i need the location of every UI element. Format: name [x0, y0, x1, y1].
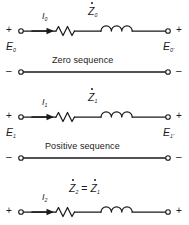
figure-canvas: + + – – I0 Z0 E0 E0' Zero sequence + + –…: [0, 0, 189, 225]
negative-top-right-polarity: +: [176, 206, 182, 216]
zero-source-voltage-label: E0: [6, 41, 16, 52]
positive-impedance-label: Z1: [88, 92, 97, 103]
positive-top-left-polarity: +: [6, 111, 12, 121]
terminal-node: [166, 156, 171, 161]
current-arrow: [47, 209, 55, 215]
terminal-node: [166, 115, 171, 120]
impedance-dot-accent: [94, 179, 96, 181]
negative-impedance-equation: Z2=Z1: [69, 183, 100, 194]
zero-top-left-polarity: +: [6, 25, 12, 35]
impedance-dot-accent: [91, 88, 93, 90]
terminal-node: [19, 156, 24, 161]
current-arrow: [47, 114, 55, 120]
zero-bottom-right-polarity: –: [176, 66, 182, 76]
terminal-node: [166, 70, 171, 75]
terminal-node: [19, 70, 24, 75]
positive-load-voltage-label: E1': [163, 127, 174, 138]
zero-sequence-title: Zero sequence: [52, 56, 113, 65]
terminal-node: [19, 29, 24, 34]
negative-top-left-polarity: +: [6, 206, 12, 216]
zero-bottom-left-polarity: –: [6, 66, 12, 76]
zero-impedance-label: Z0: [88, 6, 97, 17]
impedance-dot-accent: [91, 2, 93, 4]
zero-top-right-polarity: +: [176, 25, 182, 35]
zero-current-label: I0: [42, 12, 47, 21]
impedance-dot-accent: [72, 179, 74, 181]
current-arrow: [47, 28, 55, 34]
terminal-node: [19, 210, 24, 215]
terminal-node: [166, 210, 171, 215]
positive-bottom-right-polarity: –: [176, 152, 182, 162]
terminal-node: [19, 115, 24, 120]
terminal-node: [166, 29, 171, 34]
positive-current-label: I1: [42, 98, 47, 107]
positive-sequence-title: Positive sequence: [45, 142, 120, 151]
positive-source-voltage-label: E1: [6, 127, 16, 138]
zero-load-voltage-label: E0': [163, 41, 174, 52]
positive-top-right-polarity: +: [176, 111, 182, 121]
positive-bottom-left-polarity: –: [6, 152, 12, 162]
negative-current-label: I2: [42, 193, 47, 202]
